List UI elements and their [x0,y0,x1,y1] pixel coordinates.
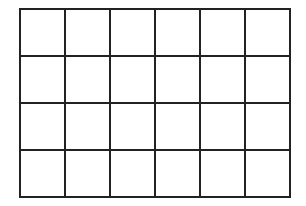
grid-cell [155,103,200,150]
grid-cell [200,103,245,150]
grid-cell [155,56,200,103]
grid-cell [110,103,155,150]
grid-cell [245,56,290,103]
grid-cell [110,9,155,56]
grid-cell [65,150,110,197]
grid-cell [200,56,245,103]
grid-cell [20,150,65,197]
grid-cell [245,9,290,56]
grid-cell [65,56,110,103]
grid-cell [110,56,155,103]
grid-cell [20,9,65,56]
grid-diagram [0,0,306,206]
grid-cell [245,150,290,197]
grid-cell [155,150,200,197]
grid-cell [245,103,290,150]
grid-cell [200,150,245,197]
grid-cell [20,56,65,103]
grid-cell [110,150,155,197]
grid-cell [65,103,110,150]
grid-cell [20,103,65,150]
grid-cell [65,9,110,56]
grid-cell [155,9,200,56]
grid-cell [200,9,245,56]
